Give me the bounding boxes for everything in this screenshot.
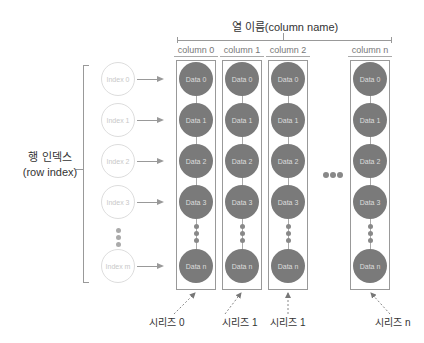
series-label-2: 시리즈 1	[263, 314, 313, 329]
series-label-1: 시리즈 1	[215, 314, 265, 329]
series-label-0: 시리즈 0	[142, 314, 192, 329]
series-label-n: 시리즈 n	[368, 314, 418, 329]
series-pointers	[0, 0, 424, 343]
